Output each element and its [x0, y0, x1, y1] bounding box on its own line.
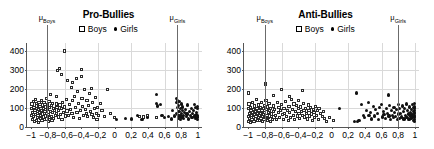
x-axis-tick-mark — [332, 127, 333, 129]
legend-item-boys: Boys — [79, 24, 106, 34]
x-axis-tick-mark — [265, 127, 266, 129]
data-point-boys — [109, 112, 112, 115]
x-axis-tick-label: 0 — [112, 130, 117, 140]
data-point-girls — [367, 101, 370, 104]
legend-label-boys: Boys — [88, 24, 107, 34]
data-point-boys — [255, 98, 258, 101]
data-point-girls — [363, 116, 366, 119]
x-axis-tick-label: −1 — [243, 130, 253, 140]
x-axis-tick-mark — [81, 127, 82, 129]
data-point-boys — [292, 114, 295, 117]
data-point-girls — [388, 104, 391, 107]
filled-circle-icon — [114, 27, 118, 31]
mu-girls-line — [398, 25, 399, 127]
gridline-horizontal — [27, 51, 202, 52]
data-point-girls — [163, 116, 166, 119]
y-axis-tick-label: 0 — [236, 122, 241, 132]
data-point-girls — [196, 114, 199, 117]
data-point-boys — [272, 104, 275, 107]
data-point-boys — [332, 119, 335, 122]
data-point-girls — [374, 108, 377, 111]
data-point-boys — [315, 114, 318, 117]
data-point-girls — [387, 93, 390, 96]
legend-pro-bullies: Boys Girls — [0, 24, 217, 34]
x-axis-tick-label: 0,6 — [159, 130, 171, 140]
data-point-boys — [317, 107, 320, 110]
x-axis-tick-label: 1 — [195, 130, 200, 140]
legend-item-boys: Boys — [296, 24, 323, 34]
open-square-icon — [79, 26, 85, 32]
data-point-boys — [70, 86, 73, 89]
data-point-girls — [413, 120, 416, 123]
x-axis-tick-mark — [382, 127, 383, 129]
x-axis-tick-label: −0,8 — [39, 130, 56, 140]
data-point-boys — [70, 112, 73, 115]
x-axis-tick-mark — [415, 127, 416, 129]
data-point-boys — [90, 87, 93, 90]
data-point-boys — [66, 79, 69, 82]
data-point-boys — [69, 108, 72, 111]
data-point-boys — [71, 81, 74, 84]
data-point-girls — [367, 114, 370, 117]
x-axis-tick-mark — [65, 127, 66, 129]
data-point-girls — [146, 116, 149, 119]
x-axis-tick-mark — [365, 127, 366, 129]
data-point-girls — [413, 111, 416, 114]
data-point-boys — [276, 101, 279, 104]
data-point-boys — [95, 118, 98, 121]
y-axis-tick-mark — [25, 127, 27, 128]
x-axis-tick-mark — [282, 127, 283, 129]
data-point-girls — [124, 117, 127, 120]
x-axis-tick-label: −0,4 — [290, 130, 307, 140]
x-axis-tick-mark — [398, 127, 399, 129]
y-axis-tick-label: 200 — [10, 84, 24, 94]
data-point-boys — [73, 95, 76, 98]
y-axis-tick-mark — [242, 108, 244, 109]
legend-label-girls: Girls — [120, 24, 137, 34]
y-axis-tick-label: 300 — [10, 65, 24, 75]
data-point-boys — [34, 98, 37, 101]
data-point-boys — [55, 95, 58, 98]
data-point-boys — [30, 102, 33, 105]
y-axis-tick-label: 300 — [227, 65, 241, 75]
x-axis-tick-mark — [298, 127, 299, 129]
x-axis-tick-label: 0,8 — [175, 130, 187, 140]
data-point-boys — [71, 99, 74, 102]
filled-circle-icon — [331, 27, 335, 31]
data-point-girls — [380, 103, 383, 106]
data-point-boys — [284, 100, 287, 103]
gridline-horizontal — [244, 89, 419, 90]
gridline-horizontal — [244, 70, 419, 71]
data-point-boys — [290, 98, 293, 101]
gridline-vertical — [348, 43, 349, 127]
data-point-boys — [52, 117, 55, 120]
open-square-icon — [296, 26, 302, 32]
y-axis-tick-label: 400 — [227, 46, 241, 56]
data-point-boys — [247, 91, 250, 94]
data-point-boys — [65, 98, 68, 101]
data-point-girls — [171, 109, 174, 112]
data-point-boys — [78, 117, 81, 120]
data-point-girls — [155, 93, 158, 96]
mu-boys-label: μBoys — [39, 13, 56, 24]
data-point-boys — [79, 109, 82, 112]
plot-area-pro-bullies: 0100200300400−1−0,8−0,6−0,4−0,200,20,40,… — [26, 43, 202, 128]
data-point-boys — [96, 106, 99, 109]
y-axis-tick-mark — [242, 127, 244, 128]
data-point-boys — [55, 102, 58, 105]
data-point-girls — [377, 118, 380, 121]
y-axis-tick-label: 100 — [10, 103, 24, 113]
x-axis-tick-mark — [181, 127, 182, 129]
data-point-boys — [302, 102, 305, 105]
x-axis-tick-mark — [198, 127, 199, 129]
data-point-boys — [58, 103, 61, 106]
data-point-girls — [159, 103, 162, 106]
mu-boys-label: μBoys — [257, 13, 274, 24]
x-axis-tick-label: −0,2 — [306, 130, 323, 140]
x-axis-tick-mark — [115, 127, 116, 129]
x-axis-tick-mark — [98, 127, 99, 129]
data-point-boys — [94, 96, 97, 99]
data-point-boys — [51, 102, 54, 105]
data-point-boys — [80, 97, 83, 100]
data-point-boys — [285, 115, 288, 118]
